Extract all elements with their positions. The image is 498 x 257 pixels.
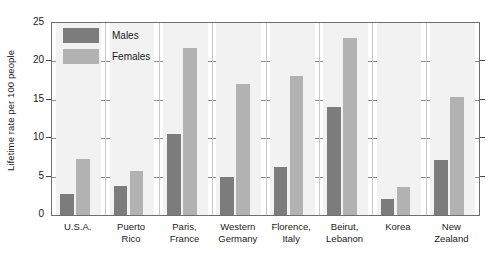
legend-swatch-males-icon [63,28,99,43]
legend-item-females: Females [63,49,150,64]
x-tick-label: NewZealand [425,221,478,244]
x-tick-label-line: Puerto [104,221,157,233]
x-tick-label: Beirut,Lebanon [318,221,371,244]
y-tick-mark [46,99,51,100]
x-tick-label-line: Rico [104,233,157,245]
group-band [377,23,422,215]
group-separator [212,23,213,215]
legend: Males Females [63,28,150,70]
y-tick-mark [46,176,51,177]
bar-female-6 [397,187,411,215]
bar-female-5 [343,38,357,215]
x-tick-label-line: Paris, [158,221,211,233]
bar-female-3 [236,84,250,215]
y-tick-mark-right [480,60,485,61]
group-separator [159,23,160,215]
x-tick-label-line: Western [211,221,264,233]
bar-male-6 [381,199,395,215]
group-separator [372,23,373,215]
x-tick-label-line: Beirut, [318,221,371,233]
y-tick-mark [46,60,51,61]
x-tick-label: PuertoRico [104,221,157,244]
y-tick-mark-right [480,137,485,138]
group-separator [266,23,267,215]
y-axis-title-text: Lifetime rate per 100 people [6,49,17,170]
y-tick-label: 0 [18,208,44,219]
x-tick-label: Korea [371,221,424,233]
x-tick-label: Paris,France [158,221,211,244]
y-tick-label: 20 [18,54,44,65]
y-tick-label: 15 [18,93,44,104]
y-tick-mark-right [480,99,485,100]
legend-label-females: Females [112,51,150,62]
y-tick-label: 25 [18,16,44,27]
group-separator [319,23,320,215]
x-tick-label-line: Zealand [425,233,478,245]
y-tick-mark [46,137,51,138]
legend-label-males: Males [112,30,139,41]
y-tick-mark-right [480,176,485,177]
bar-male-1 [114,186,128,215]
x-tick-label-line: Italy [265,233,318,245]
x-tick-label: Florence,Italy [265,221,318,244]
x-tick-label-line: Florence, [265,221,318,233]
x-tick-label: WesternGermany [211,221,264,244]
x-tick-label-line: Lebanon [318,233,371,245]
legend-swatch-females-icon [63,49,99,64]
x-tick-label-line: U.S.A. [51,221,104,233]
x-tick-label-line: France [158,233,211,245]
bar-male-2 [167,134,181,215]
bar-male-5 [327,107,341,215]
bar-chart: Lifetime rate per 100 people 0510152025 … [0,0,498,257]
bar-female-0 [76,159,90,215]
bar-female-4 [290,76,304,215]
y-tick-label: 5 [18,170,44,181]
x-tick-label-line: Germany [211,233,264,245]
bar-male-0 [60,194,74,216]
x-tick-label: U.S.A. [51,221,104,233]
y-axis-title: Lifetime rate per 100 people [0,0,22,220]
bar-male-7 [434,160,448,215]
x-tick-label-line: Korea [371,221,424,233]
bar-female-7 [450,97,464,215]
y-tick-label: 10 [18,131,44,142]
bar-male-3 [220,177,234,215]
bar-female-2 [183,48,197,215]
bar-female-1 [130,171,144,215]
legend-item-males: Males [63,28,150,43]
x-tick-label-line: New [425,221,478,233]
bar-male-4 [274,167,288,215]
group-separator [426,23,427,215]
